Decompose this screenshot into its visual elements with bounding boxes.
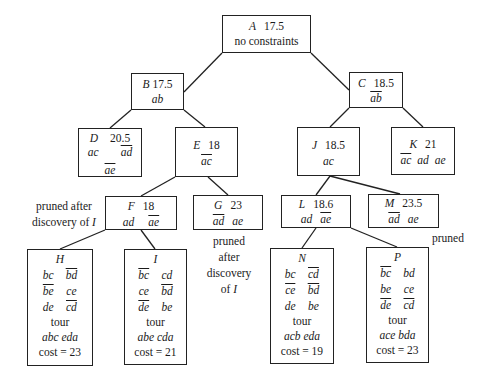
edge-constraint: ae xyxy=(408,211,419,227)
edge-constraint-excluded: bd xyxy=(308,282,320,298)
edge-constraint: ad xyxy=(123,214,135,230)
node-label: I xyxy=(125,252,186,267)
constraint-grid: bc cd ce bd de be xyxy=(271,266,333,314)
node-label: F xyxy=(128,200,135,212)
annotation-line: of I xyxy=(198,281,260,297)
edge-L-N xyxy=(302,228,316,248)
node-N: N bc cd ce bd de be tour acb eda cost = … xyxy=(270,248,334,364)
annotation-line: discovery of I xyxy=(25,214,103,230)
edge-constraint: ae xyxy=(232,213,243,229)
node-F: F18 adae xyxy=(105,196,177,230)
annotation-line: pruned xyxy=(198,233,260,249)
tour-value: abe cda xyxy=(125,330,186,345)
annotation-line: discovery xyxy=(198,265,260,281)
tour-cost: cost = 23 xyxy=(367,343,428,358)
node-label: B xyxy=(142,78,149,90)
edge-constraint: cd xyxy=(161,267,173,283)
constraint-grid: bc bd be ce de cd xyxy=(367,265,428,313)
node-B: B17.5 ab xyxy=(131,73,184,110)
edge-constraint: be xyxy=(380,281,391,297)
edge-constraint-excluded: ad xyxy=(213,213,225,229)
tour-label: tour xyxy=(271,314,333,329)
node-label: C xyxy=(358,77,366,89)
node-bound: 18.5 xyxy=(325,139,345,151)
edge-constraint-excluded: bc xyxy=(380,265,391,281)
edge-constraint-excluded: bd xyxy=(161,283,173,299)
edge-constraint: ad xyxy=(301,212,313,227)
node-bound: 21 xyxy=(425,138,437,150)
edge-constraint-excluded: ad xyxy=(121,145,133,159)
node-A: A17.5 no constraints xyxy=(222,15,311,53)
edge-constraint-excluded: cd xyxy=(308,266,320,282)
node-bound: 18 xyxy=(208,139,220,151)
node-L: L18.6 adae xyxy=(281,195,351,228)
edge-constraint-excluded: ae xyxy=(320,212,331,227)
node-bound: 20.5 xyxy=(110,132,130,144)
edge-J-M xyxy=(330,176,400,194)
node-bound: 17.5 xyxy=(152,78,172,90)
annotation-line: pruned after xyxy=(25,198,103,214)
node-E: E18 ac xyxy=(175,127,238,177)
edge-constraint-excluded: bd xyxy=(66,267,78,283)
node-label: J xyxy=(312,139,317,151)
node-bound: 18 xyxy=(143,200,155,212)
node-M: M23.5 adae xyxy=(368,194,439,228)
node-P: P bc bd be ce de cd tour ace bda cost = … xyxy=(366,247,429,363)
node-C: C18.5 ab xyxy=(349,72,403,108)
edge-constraint: ce xyxy=(138,283,149,299)
tour-value: ace bda xyxy=(367,328,428,343)
tour-label: tour xyxy=(367,313,428,328)
node-label: N xyxy=(271,251,333,266)
edge-constraint-excluded: ac xyxy=(400,152,411,168)
edge-F-I xyxy=(141,230,155,249)
edge-F-H xyxy=(60,230,105,249)
edge-constraint-excluded: ce xyxy=(285,282,296,298)
constraint-grid: bc bd be ce de cd xyxy=(28,267,92,315)
edge-constraint: ac xyxy=(323,153,334,169)
edge-constraint: ce xyxy=(66,283,78,299)
node-label: H xyxy=(28,252,92,267)
edge-B-E xyxy=(184,110,205,127)
edge-A-C xyxy=(311,53,349,90)
node-I: I bc cd ce bd de be tour abe cda cost = … xyxy=(124,249,187,365)
edge-L-P xyxy=(351,228,397,247)
edge-constraint: bd xyxy=(403,265,415,281)
node-label: E xyxy=(193,139,200,151)
edge-constraint: bc xyxy=(43,267,54,283)
edge-constraint: ce xyxy=(403,281,415,297)
edge-constraint-excluded: ae xyxy=(148,214,159,230)
edge-constraint-excluded: be xyxy=(43,283,54,299)
annotation-text: pruned xyxy=(432,232,464,244)
annotation-text: of xyxy=(221,283,233,295)
edge-constraint: ae xyxy=(435,152,446,168)
node-label: K xyxy=(409,138,417,150)
node-bound: 23 xyxy=(230,199,242,211)
edge-E-F xyxy=(141,177,175,196)
node-label: G xyxy=(214,199,222,211)
node-label: A xyxy=(249,20,256,32)
constraint-text: no constraints xyxy=(223,34,310,49)
annotation-var: I xyxy=(233,283,237,295)
edge-constraint-excluded: ae xyxy=(105,163,116,177)
edge-constraint: bc xyxy=(285,266,296,282)
annotation-line: after xyxy=(198,249,260,265)
tour-label: tour xyxy=(125,315,186,330)
node-G: G23 adae xyxy=(193,195,263,230)
tour-label: tour xyxy=(28,315,92,330)
tour-cost: cost = 21 xyxy=(125,345,186,360)
edge-constraint-excluded: cd xyxy=(66,299,78,315)
edge-constraint-excluded: ab xyxy=(370,91,382,106)
tour-value: abc eda xyxy=(28,330,92,345)
edge-constraint: ab xyxy=(152,92,164,107)
edge-B-D xyxy=(110,110,131,128)
edge-constraint: be xyxy=(161,299,173,315)
edge-constraint-excluded: cd xyxy=(403,297,415,313)
node-D: D20.5 acad ae xyxy=(78,128,142,177)
edge-J-L xyxy=(316,176,330,195)
edge-constraint: ad xyxy=(417,152,429,168)
edge-constraint: de xyxy=(285,298,296,314)
annotation-F-pruned: pruned after discovery of I xyxy=(25,198,103,230)
edge-constraint: ac xyxy=(88,145,99,159)
node-J: J18.5 ac xyxy=(297,127,360,176)
edge-constraint-excluded: de xyxy=(138,299,149,315)
